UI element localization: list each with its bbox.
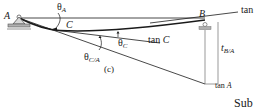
tangent-at-c-line [50,30,160,44]
theta-c-label: θC [118,38,127,50]
point-b-label: B [199,9,205,19]
figure-caption: (c) [104,65,114,74]
tangent-at-a-line [19,18,205,84]
deviation-t-b-a-label: tB/A [221,43,234,55]
theta-a-arc [55,13,60,29]
tan-a-label: tan A [215,82,232,90]
theta-c-a-arc [99,37,101,50]
tan-b-label: tan [241,5,253,15]
beam-deflection-diagram [0,0,254,108]
point-c-label: C [66,20,73,30]
point-a-label: A [4,11,10,21]
cut-off-text: Sub [234,97,253,108]
theta-a-label: θA [57,2,66,14]
tan-c-label: tan C [148,35,169,45]
theta-c-arrowhead [117,31,120,34]
roller-support-icon [199,23,211,30]
theta-c-a-label: θC/A [84,52,100,64]
